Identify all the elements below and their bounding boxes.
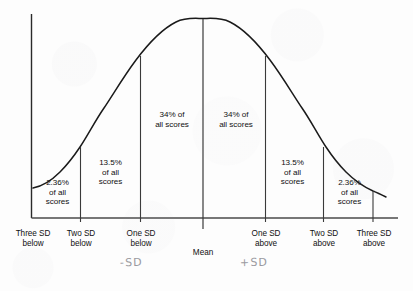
axis-label-line2: above [348, 239, 400, 249]
bell-curve-figure: 2.36% of all scores 13.5% of all scores … [0, 0, 413, 291]
axis-label-two-sd-below: Two SD below [57, 229, 105, 248]
region-pct-line2: scores [327, 197, 372, 207]
region-pct-value: 34% of [144, 110, 200, 120]
axis-label-mean: Mean [181, 248, 225, 258]
region-pct-value: 2.36% [327, 178, 372, 188]
axis-label-two-sd-above: Two SD above [300, 229, 348, 248]
axis-label-one-sd-above: One SD above [242, 229, 290, 248]
bell-curve-path [33, 18, 386, 197]
region-pct-value: 13.5% [88, 158, 133, 168]
axis-label-line2: above [300, 239, 348, 249]
region-pct-line1: all scores [144, 120, 200, 130]
region-pct-line2: scores [88, 177, 133, 187]
region-label-2-36-left: 2.36% of all scores [35, 178, 80, 207]
axis-label-line2: below [7, 239, 59, 249]
axis-label-line1: One SD [242, 229, 290, 239]
axis-label-line1: Three SD [7, 229, 59, 239]
region-label-13-5-left: 13.5% of all scores [88, 158, 133, 187]
axis-label-line1: Two SD [57, 229, 105, 239]
handwritten-plus-sd-annotation: +SD [240, 256, 268, 270]
axis-label-line1: Two SD [300, 229, 348, 239]
region-pct-value: 13.5% [270, 158, 315, 168]
region-label-2-36-right: 2.36% of all scores [327, 178, 372, 207]
region-pct-line1: of all [327, 188, 372, 198]
axis-label-line2: below [57, 239, 105, 249]
handwritten-minus-sd-annotation: -SD [120, 256, 143, 270]
axis-label-line2: above [242, 239, 290, 249]
axis-label-line1: Mean [181, 248, 225, 258]
axis-label-three-sd-above: Three SD above [348, 229, 400, 248]
axis-label-one-sd-below: One SD below [117, 229, 165, 248]
region-pct-value: 34% of [208, 110, 264, 120]
axis-label-three-sd-below: Three SD below [7, 229, 59, 248]
region-label-34-right: 34% of all scores [208, 110, 264, 129]
region-pct-line2: scores [270, 177, 315, 187]
region-pct-line1: all scores [208, 120, 264, 130]
region-pct-line1: of all [35, 188, 80, 198]
region-pct-line1: of all [270, 168, 315, 178]
region-pct-line2: scores [35, 197, 80, 207]
region-label-34-left: 34% of all scores [144, 110, 200, 129]
axis-label-line2: below [117, 239, 165, 249]
axis-label-line1: Three SD [348, 229, 400, 239]
region-label-13-5-right: 13.5% of all scores [270, 158, 315, 187]
region-pct-line1: of all [88, 168, 133, 178]
region-pct-value: 2.36% [35, 178, 80, 188]
axis-label-line1: One SD [117, 229, 165, 239]
